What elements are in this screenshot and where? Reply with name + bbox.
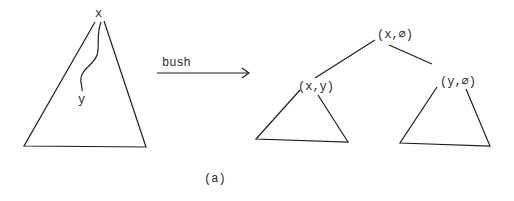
bush-diagram: x y bush (x,∅) (x,y) (y,∅) (a)	[0, 0, 514, 201]
arrow-label: bush	[162, 56, 191, 70]
path-x-to-y	[81, 22, 101, 91]
right-child-label: (y,∅)	[440, 75, 476, 89]
right-tree: (x,∅) (x,y) (y,∅)	[256, 28, 490, 146]
left-child-subtree	[256, 90, 348, 142]
right-child-subtree	[400, 87, 490, 146]
edge-root-right	[389, 45, 432, 64]
right-root-label: (x,∅)	[377, 28, 413, 42]
left-root-label: x	[95, 7, 102, 21]
left-child-label: (x,y)	[298, 80, 334, 94]
left-tree: x y	[24, 7, 146, 147]
edge-root-left	[315, 40, 375, 78]
left-tree-triangle	[24, 21, 146, 147]
path-end-label: y	[78, 93, 85, 107]
bush-arrow: bush	[157, 56, 249, 78]
figure-caption: (a)	[204, 172, 226, 186]
